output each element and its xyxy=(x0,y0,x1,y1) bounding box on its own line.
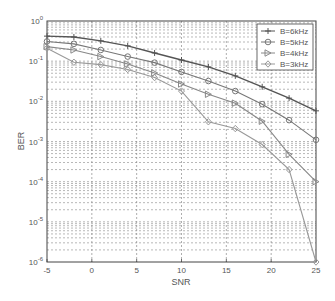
y-tick-label: 10-4 xyxy=(29,176,44,187)
legend-item: B=3kHz xyxy=(261,60,308,69)
y-tick-label: 100 xyxy=(31,15,44,26)
legend-label: B=6kHz xyxy=(280,27,308,36)
y-axis-label: BER xyxy=(16,131,26,150)
legend-label: B=4kHz xyxy=(280,49,308,58)
x-tick-label: 5 xyxy=(134,266,139,275)
x-tick-label: 20 xyxy=(267,266,276,275)
x-tick-label: -5 xyxy=(43,266,51,275)
x-axis-ticks: -50510152025 xyxy=(43,259,321,275)
x-tick-label: 15 xyxy=(222,266,231,275)
ber-vs-snr-chart: -50510152025 10010-110-210-310-410-510-6… xyxy=(0,0,335,301)
y-tick-label: 10-2 xyxy=(29,95,44,106)
y-tick-label: 10-5 xyxy=(29,216,44,227)
x-tick-label: 10 xyxy=(177,266,186,275)
y-tick-label: 10-1 xyxy=(29,55,44,66)
legend-label: B=5kHz xyxy=(280,38,308,47)
x-tick-label: 25 xyxy=(312,266,321,275)
legend: B=6kHzB=5kHzB=4kHzB=3kHz xyxy=(257,24,313,70)
y-tick-label: 10-6 xyxy=(29,256,44,267)
legend-label: B=3kHz xyxy=(280,60,308,69)
y-tick-label: 10-3 xyxy=(29,136,44,147)
y-axis-ticks: 10010-110-210-310-410-510-6 xyxy=(29,15,44,267)
x-axis-label: SNR xyxy=(171,277,191,287)
x-tick-label: 0 xyxy=(90,266,95,275)
